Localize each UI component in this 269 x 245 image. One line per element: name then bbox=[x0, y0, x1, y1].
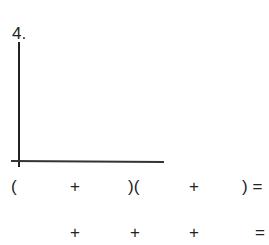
plus-sign: + bbox=[70, 224, 80, 241]
plus-sign: + bbox=[70, 178, 80, 195]
plus-sign: + bbox=[189, 224, 199, 241]
plus-sign: + bbox=[189, 178, 199, 195]
close-paren-equals: ) = bbox=[242, 178, 262, 195]
problem-number: 4. bbox=[12, 24, 26, 44]
area-model-horizontal-axis bbox=[11, 160, 164, 163]
close-open-paren: )( bbox=[128, 178, 139, 195]
plus-sign: + bbox=[130, 224, 140, 241]
area-model-vertical-axis bbox=[18, 42, 20, 167]
open-paren: ( bbox=[11, 178, 17, 195]
equals-sign: = bbox=[255, 224, 265, 241]
